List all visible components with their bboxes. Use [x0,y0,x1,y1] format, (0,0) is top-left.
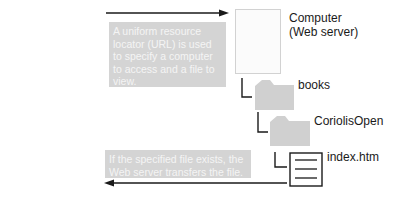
request-arrow [106,10,229,17]
tree-connector-books [242,78,252,97]
folder-icon [255,80,294,110]
folder-icon [270,116,310,146]
computer-label-line1: Computer [289,11,358,25]
document-icon [290,153,322,186]
request-callout: A uniform resource locator (URL) is used… [109,22,226,87]
file-label-index: index.htm [327,150,379,164]
server-icon [235,9,281,74]
folder-label-books: books [298,78,330,92]
response-callout: If the specified file exists, the Web se… [105,150,251,178]
computer-label-line2: (Web server) [289,25,358,39]
folder-label-coriolisopen: CoriolisOpen [314,114,383,128]
tree-connector-coriolisopen [258,112,268,132]
computer-label: Computer (Web server) [289,11,358,39]
response-arrow [104,180,287,187]
tree-connector-index [275,152,287,167]
